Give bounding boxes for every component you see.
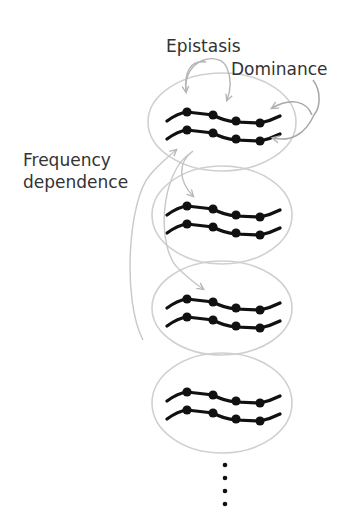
individual-ellipse-1: [148, 73, 296, 171]
chromosome-pair-3: [167, 294, 280, 332]
dominance-arrow: [273, 80, 319, 139]
frequency-arrow-up-1: [130, 150, 176, 340]
frequency-dependence-label-line1: Frequency: [23, 150, 111, 170]
genetic-interaction-diagram: Epistasis Dominance Frequency dependence: [0, 0, 358, 524]
frequency-dependence-label-line2: dependence: [23, 172, 128, 192]
chromosome-pair-1: [167, 107, 280, 145]
dominance-label: Dominance: [231, 59, 328, 79]
chromosome-pair-4: [167, 387, 280, 425]
dominance-arrow-upper: [272, 102, 312, 115]
individual-ellipse-4: [152, 353, 292, 453]
continuation-ellipsis: [223, 463, 228, 507]
epistasis-label: Epistasis: [166, 36, 241, 56]
chromosome-pair-2: [167, 201, 280, 239]
epistasis-arrow-left: [186, 62, 206, 92]
